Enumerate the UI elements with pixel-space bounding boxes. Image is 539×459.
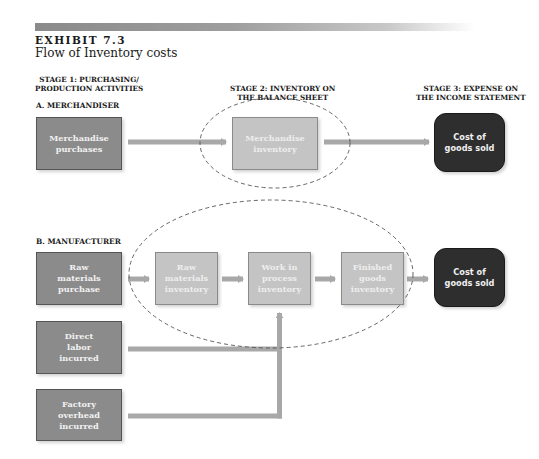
finished-goods-inventory-box: Finished goods inventory bbox=[341, 252, 404, 305]
box-label-line: Raw bbox=[165, 262, 208, 273]
box-label-line: goods bbox=[351, 273, 394, 284]
box-label-line: materials bbox=[165, 273, 208, 284]
manufacturer-cogs-box: Cost of goods sold bbox=[434, 248, 505, 307]
box-label-line: process bbox=[258, 273, 301, 284]
box-label-line: incurred bbox=[58, 421, 100, 432]
merchandiser-cogs-box: Cost of goods sold bbox=[434, 113, 505, 172]
raw-materials-inventory-box: Raw materials inventory bbox=[155, 252, 218, 305]
box-label-line: Cost of bbox=[445, 267, 495, 278]
box-label-line: goods sold bbox=[445, 278, 495, 289]
box-label-line: Merchandise bbox=[245, 133, 304, 144]
box-label-line: goods sold bbox=[445, 143, 495, 154]
box-label-line: Raw bbox=[57, 262, 100, 273]
box-label-line: materials bbox=[57, 273, 100, 284]
box-label-line: Finished bbox=[351, 262, 394, 273]
box-label-line: overhead bbox=[58, 410, 100, 421]
factory-overhead-box: Factory overhead incurred bbox=[36, 389, 122, 441]
box-label-line: incurred bbox=[59, 353, 99, 364]
box-label-line: Work in bbox=[258, 262, 301, 273]
box-label-line: Merchandise bbox=[49, 133, 108, 144]
box-label-line: inventory bbox=[258, 284, 301, 295]
box-label-line: inventory bbox=[351, 284, 394, 295]
direct-labor-box: Direct labor incurred bbox=[36, 321, 122, 374]
merchandise-inventory-box: Merchandise inventory bbox=[232, 117, 318, 170]
box-label-line: purchases bbox=[49, 144, 108, 155]
box-label-line: labor bbox=[59, 342, 99, 353]
box-label-line: Direct bbox=[59, 331, 99, 342]
box-label-line: inventory bbox=[165, 284, 208, 295]
box-label-line: purchase bbox=[57, 284, 100, 295]
box-label-line: Factory bbox=[58, 399, 100, 410]
box-label-line: Cost of bbox=[445, 132, 495, 143]
work-in-process-inventory-box: Work in process inventory bbox=[248, 252, 311, 305]
box-label-line: inventory bbox=[245, 144, 304, 155]
merchandise-purchases-box: Merchandise purchases bbox=[36, 117, 122, 170]
raw-materials-purchase-box: Raw materials purchase bbox=[36, 252, 122, 305]
